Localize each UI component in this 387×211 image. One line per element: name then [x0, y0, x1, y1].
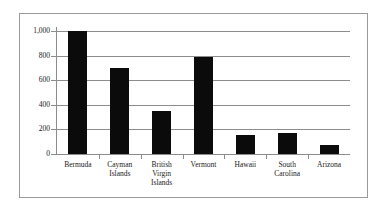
y-axis-tick-mark [51, 154, 57, 155]
x-axis-category-label: Bermuda [57, 160, 99, 169]
x-axis-category-label-line: Carolina [266, 169, 308, 178]
x-axis-category-label: SouthCarolina [266, 160, 308, 178]
x-axis-line [57, 154, 350, 155]
bar [236, 135, 255, 154]
x-axis-category-label: Arizona [308, 160, 350, 169]
x-axis-category-label: Hawaii [224, 160, 266, 169]
y-axis-tick-mark [51, 31, 57, 32]
y-axis-tick-mark [51, 105, 57, 106]
y-axis-tick-label: 600 [4, 76, 50, 84]
y-axis-tick-label: 400 [4, 101, 50, 109]
bar-series [57, 31, 350, 154]
bar [194, 57, 213, 154]
x-axis-category-label-line: Arizona [308, 160, 350, 169]
y-axis-tick-labels: 02004006008001,000 [0, 0, 50, 211]
x-axis-category-label-line: Vermont [183, 160, 225, 169]
y-axis-tick-label: 0 [4, 150, 50, 158]
x-axis-category-label-line: Hawaii [224, 160, 266, 169]
y-axis-tick-label: 800 [4, 52, 50, 60]
y-axis-tick-mark [51, 80, 57, 81]
bar [152, 111, 171, 154]
x-axis-tick-mark [266, 155, 267, 159]
y-axis-tick-label: 200 [4, 125, 50, 133]
x-axis-category-label-line: South [266, 160, 308, 169]
x-axis-tick-mark [99, 155, 100, 159]
x-axis-category-label-line: Islands [99, 169, 141, 178]
x-axis-tick-mark [308, 155, 309, 159]
x-axis-category-label-line: Virgin [141, 169, 183, 178]
x-axis-category-label: Vermont [183, 160, 225, 169]
x-axis-category-label-line: Islands [141, 178, 183, 187]
x-axis-tick-mark [224, 155, 225, 159]
x-axis-category-label: BritishVirginIslands [141, 160, 183, 187]
bar-chart-figure: 02004006008001,000 BermudaCaymanIslandsB… [0, 0, 387, 211]
y-axis-tick-mark [51, 56, 57, 57]
x-axis-tick-mark [141, 155, 142, 159]
plot-area [57, 31, 350, 154]
x-axis-category-label: CaymanIslands [99, 160, 141, 178]
bar [320, 145, 339, 154]
x-axis-category-label-line: Cayman [99, 160, 141, 169]
bar [68, 31, 87, 154]
x-axis-category-label-line: British [141, 160, 183, 169]
x-axis-category-label-line: Bermuda [57, 160, 99, 169]
y-axis-tick-mark [51, 129, 57, 130]
bar [110, 68, 129, 154]
x-axis-tick-mark [183, 155, 184, 159]
y-axis-tick-label: 1,000 [4, 27, 50, 35]
bar [278, 133, 297, 154]
